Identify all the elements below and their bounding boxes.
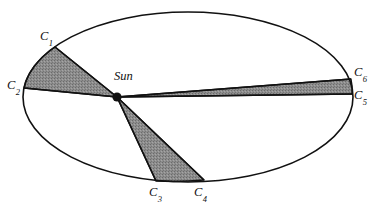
point-subscript-c5: 5 [363, 97, 367, 107]
point-subscript-c2: 2 [16, 87, 20, 97]
point-subscript-c1: 1 [49, 38, 53, 48]
point-subscript-c3: 3 [158, 194, 162, 204]
point-subscript-c6: 6 [363, 74, 367, 84]
orbit-ellipse [23, 12, 353, 182]
point-label-c5: C5 [354, 89, 367, 102]
point-letter-c4: C [194, 185, 202, 199]
point-label-c2: C2 [7, 79, 20, 92]
point-letter-c3: C [149, 185, 157, 199]
point-letter-c2: C [7, 78, 15, 92]
point-letter-c1: C [40, 29, 48, 43]
point-letter-c6: C [354, 65, 362, 79]
sun-label: Sun [114, 70, 133, 83]
point-label-c3: C3 [149, 186, 162, 199]
orbital-diagram: Sun C1 C2 C3 C4 C5 C6 [0, 0, 383, 211]
point-letter-c5: C [354, 88, 362, 102]
point-label-c6: C6 [354, 66, 367, 79]
point-label-c1: C1 [40, 30, 53, 43]
orbit-diagram-canvas [0, 0, 383, 211]
point-label-c4: C4 [194, 186, 207, 199]
point-subscript-c4: 4 [203, 194, 207, 204]
sun-dot [112, 92, 121, 101]
